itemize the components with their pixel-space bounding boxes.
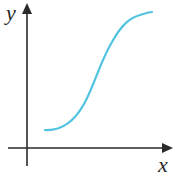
x-axis-label: x [157,152,168,177]
s-curve [45,12,152,130]
y-axis-label: y [4,0,16,25]
y-axis-arrow-icon [22,3,32,14]
graph: y x [0,0,184,183]
